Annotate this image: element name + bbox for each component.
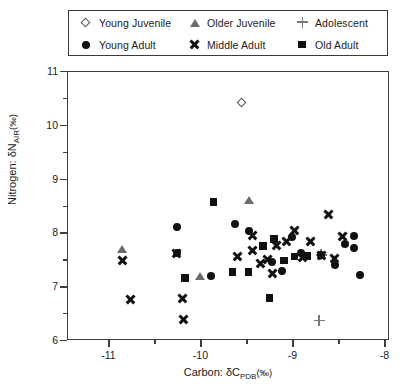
legend-row-2: Young Adult Middle Adult Old Adult: [69, 33, 387, 56]
y-axis-tick: [60, 71, 67, 72]
x-axis-title-delta: δC: [226, 366, 240, 378]
adolescent-marker-icon: [295, 15, 311, 31]
data-point-square: [181, 274, 189, 282]
legend-item-young-juvenile: Young Juvenile: [79, 11, 171, 34]
x-axis-minor-tick: [246, 340, 247, 344]
legend-label: Adolescent: [315, 17, 368, 29]
data-point-circle: [350, 232, 358, 240]
older-juvenile-marker-icon: [187, 15, 203, 31]
data-point-square: [266, 294, 274, 302]
x-axis-tick-label: -11: [93, 349, 123, 361]
x-axis-tick: [384, 340, 385, 347]
data-point-square: [291, 253, 299, 261]
data-point-circle: [207, 272, 215, 280]
legend-item-older-juvenile: Older Juvenile: [187, 11, 276, 34]
data-point-circle: [350, 244, 358, 252]
old-adult-marker-icon: [295, 37, 311, 53]
y-axis-tick-label: 7: [34, 280, 58, 292]
y-axis-tick: [60, 286, 67, 287]
data-point-circle: [356, 271, 364, 279]
x-axis-tick-label: -10: [185, 349, 215, 361]
young-juvenile-marker-icon: [79, 15, 95, 31]
data-point-x: [247, 245, 258, 256]
x-axis-tick: [200, 340, 201, 347]
y-axis-title: Nitrogen: δNAIR(‰): [6, 114, 21, 205]
legend-row-1: Young Juvenile Older Juvenile Adolescent: [69, 11, 387, 34]
young-adult-marker-icon: [79, 37, 95, 53]
y-axis-tick-label: 8: [34, 226, 58, 238]
data-point-x: [177, 292, 188, 303]
scatter-plot-area: [67, 71, 389, 340]
data-point-triangle: [244, 196, 254, 204]
legend-item-middle-adult: Middle Adult: [187, 33, 265, 56]
x-axis-title-unit: (‰): [256, 367, 272, 378]
data-point-circle: [173, 223, 181, 231]
data-point-square: [229, 268, 237, 276]
data-point-x: [171, 248, 182, 259]
y-axis-minor-tick: [63, 259, 67, 260]
y-axis-minor-tick: [63, 313, 67, 314]
data-point-x: [117, 255, 128, 266]
legend-item-old-adult: Old Adult: [295, 33, 359, 56]
y-axis-title-lead: Nitrogen:: [6, 157, 18, 205]
legend-label: Young Adult: [99, 39, 156, 51]
data-points-layer: [68, 72, 388, 339]
x-axis-title-sub: PDB: [240, 372, 256, 381]
legend-label: Middle Adult: [207, 39, 265, 51]
y-axis-minor-tick: [63, 206, 67, 207]
y-axis-tick: [60, 232, 67, 233]
data-point-x: [232, 250, 243, 261]
data-point-x: [267, 268, 278, 279]
data-point-diamond: [237, 98, 247, 108]
data-point-x: [289, 225, 300, 236]
legend-item-adolescent: Adolescent: [295, 11, 368, 34]
data-point-triangle: [117, 245, 127, 253]
y-axis-tick: [60, 179, 67, 180]
data-point-x: [305, 235, 316, 246]
y-axis-tick: [60, 125, 67, 126]
data-point-square: [245, 268, 253, 276]
data-point-square: [303, 252, 311, 260]
legend-item-young-adult: Young Adult: [79, 33, 156, 56]
data-point-triangle: [195, 272, 205, 280]
data-point-square: [280, 257, 288, 265]
legend: Young Juvenile Older Juvenile Adolescent…: [68, 10, 388, 56]
data-point-x: [178, 313, 189, 324]
y-axis-tick-label: 6: [34, 334, 58, 346]
x-axis-tick: [108, 340, 109, 347]
data-point-x: [262, 254, 273, 265]
data-point-square: [259, 242, 267, 250]
x-axis-minor-tick: [154, 340, 155, 344]
y-axis-title-sub: AIR: [12, 130, 21, 143]
x-axis-tick-label: -8: [369, 349, 399, 361]
y-axis-tick: [60, 340, 67, 341]
y-axis-title-unit: (‰): [7, 114, 18, 130]
y-axis-tick-label: 11: [34, 65, 58, 77]
x-axis-minor-tick: [338, 340, 339, 344]
legend-label: Old Adult: [315, 39, 359, 51]
y-axis-tick-label: 9: [34, 173, 58, 185]
data-point-x: [281, 235, 292, 246]
data-point-square: [270, 235, 278, 243]
y-axis-minor-tick: [63, 152, 67, 153]
x-axis-title-lead: Carbon:: [184, 366, 226, 378]
data-point-x: [316, 249, 327, 260]
data-point-x: [125, 294, 136, 305]
y-axis-title-delta: δN: [6, 143, 18, 157]
x-axis-title: Carbon: δCPDB(‰): [184, 366, 273, 381]
data-point-circle: [231, 220, 239, 228]
x-axis-tick-label: -9: [277, 349, 307, 361]
legend-label: Young Juvenile: [99, 17, 171, 29]
data-point-square: [210, 198, 218, 206]
data-point-x: [329, 253, 340, 264]
data-point-circle: [278, 267, 286, 275]
data-point-x: [337, 231, 348, 242]
data-point-x: [247, 230, 258, 241]
y-axis-tick-label: 10: [34, 119, 58, 131]
data-point-plus: [314, 315, 325, 326]
x-axis-tick: [292, 340, 293, 347]
middle-adult-marker-icon: [187, 37, 203, 53]
data-point-x: [323, 209, 334, 220]
y-axis-minor-tick: [63, 98, 67, 99]
legend-label: Older Juvenile: [207, 17, 276, 29]
